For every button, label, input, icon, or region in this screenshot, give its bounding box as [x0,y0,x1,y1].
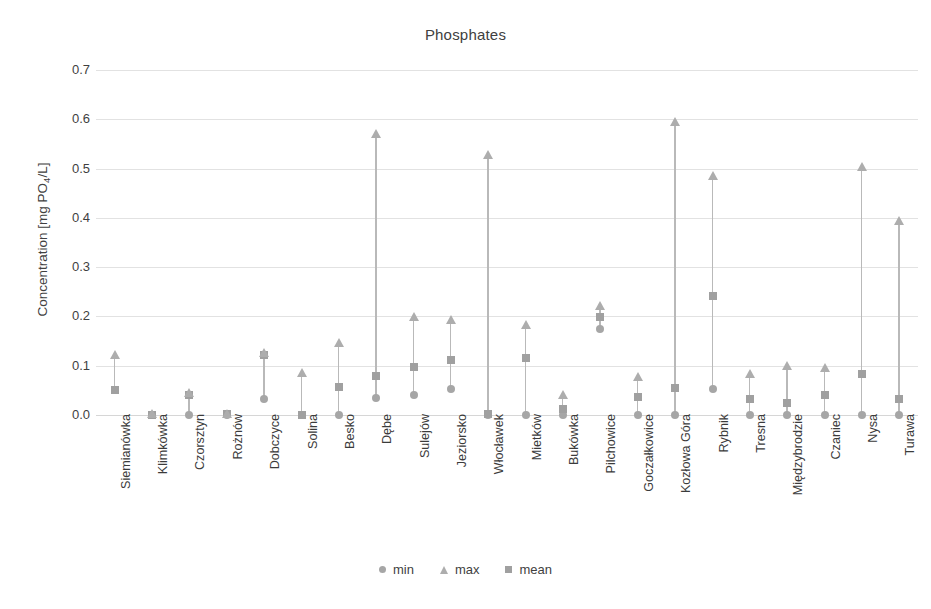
data-series-group[interactable] [217,70,237,415]
legend-label: mean [519,562,552,577]
data-point-min[interactable] [447,385,455,393]
x-axis-tick-label: Czaniec [830,414,843,542]
data-point-min[interactable] [596,325,604,333]
data-point-max[interactable] [782,361,792,370]
data-point-max[interactable] [558,390,568,399]
data-point-mean[interactable] [746,395,754,403]
data-series-group[interactable] [777,70,797,415]
data-point-max[interactable] [184,388,194,397]
x-axis-tick-label: Rybnik [718,414,731,542]
data-point-max[interactable] [446,315,456,324]
data-point-max[interactable] [857,162,867,171]
y-axis-tick-label: 0.2 [56,309,90,322]
x-axis-tick-label: Czorsztyn [194,414,207,542]
data-point-max[interactable] [595,301,605,310]
data-point-max[interactable] [409,312,419,321]
x-axis-tick-label: Siemianówka [120,414,133,542]
data-point-max[interactable] [259,348,269,357]
data-series-group[interactable] [516,70,536,415]
data-point-min[interactable] [372,394,380,402]
x-axis-tick-label: Jeziorsko [456,414,469,542]
data-series-group[interactable] [366,70,386,415]
legend-square-icon [505,566,512,573]
x-axis-tick-label: Dębe [381,414,394,542]
x-axis-tick-label: Besko [344,414,357,542]
data-point-mean[interactable] [447,356,455,364]
data-series-group[interactable] [889,70,909,415]
y-axis-title-subscript: 4 [41,178,52,183]
x-axis-tick-label: Dobczyce [269,414,282,542]
range-line [413,317,414,395]
data-series-group[interactable] [292,70,312,415]
data-point-max[interactable] [894,216,904,225]
y-axis-tick-label: 0.0 [56,408,90,421]
data-point-max[interactable] [334,338,344,347]
data-point-mean[interactable] [895,395,903,403]
data-point-mean[interactable] [858,370,866,378]
data-point-mean[interactable] [111,386,119,394]
range-line [487,155,488,415]
range-line [375,134,376,398]
chart-container: Phosphates Concentration [mg PO4/L] 0.70… [0,0,931,609]
legend-item-min[interactable]: min [379,562,414,577]
range-line [114,355,115,390]
x-axis-tick-labels: SiemianówkaKlimkówkaCzorsztynRożnówDobcz… [96,418,918,546]
data-point-max[interactable] [110,350,120,359]
data-point-max[interactable] [371,129,381,138]
data-series-group[interactable] [553,70,573,415]
data-point-max[interactable] [670,117,680,126]
x-axis-tick-label: Kozłowa Góra [680,414,693,542]
data-series-group[interactable] [142,70,162,415]
data-series-group[interactable] [665,70,685,415]
data-series-group[interactable] [815,70,835,415]
data-series-group[interactable] [404,70,424,415]
y-axis-tick-label: 0.7 [56,63,90,76]
data-series-group[interactable] [254,70,274,415]
data-series-group[interactable] [105,70,125,415]
range-line [674,122,675,415]
data-point-mean[interactable] [634,393,642,401]
data-point-mean[interactable] [410,363,418,371]
data-point-min[interactable] [260,395,268,403]
data-point-max[interactable] [745,369,755,378]
data-point-min[interactable] [709,385,717,393]
chart-legend: minmaxmean [0,562,931,577]
x-axis-tick-label: Solina [307,414,320,542]
data-point-mean[interactable] [522,354,530,362]
range-line [712,176,713,389]
data-series-group[interactable] [852,70,872,415]
data-point-max[interactable] [297,368,307,377]
data-point-max[interactable] [820,363,830,372]
data-point-mean[interactable] [372,372,380,380]
data-series-group[interactable] [740,70,760,415]
data-point-mean[interactable] [596,313,604,321]
data-series-group[interactable] [179,70,199,415]
data-series-group[interactable] [628,70,648,415]
data-point-max[interactable] [521,320,531,329]
data-point-mean[interactable] [559,405,567,413]
x-axis-tick-label: Tresna [755,414,768,542]
data-series-group[interactable] [478,70,498,415]
data-point-mean[interactable] [671,384,679,392]
x-axis-tick-label: Klimkówka [157,414,170,542]
data-point-mean[interactable] [783,399,791,407]
data-series-group[interactable] [703,70,723,415]
data-series-group[interactable] [441,70,461,415]
legend-item-mean[interactable]: mean [505,562,552,577]
data-point-mean[interactable] [709,292,717,300]
y-axis-tick-label: 0.3 [56,260,90,273]
data-series-group[interactable] [590,70,610,415]
y-axis-tick-label: 0.6 [56,112,90,125]
data-point-max[interactable] [483,150,493,159]
data-point-mean[interactable] [335,383,343,391]
data-series-group[interactable] [329,70,349,415]
range-line [301,373,302,415]
data-point-mean[interactable] [821,391,829,399]
x-axis-tick-label: Włocławek [493,414,506,542]
range-line [898,221,899,415]
data-point-max[interactable] [633,372,643,381]
legend-item-max[interactable]: max [440,562,480,577]
data-point-max[interactable] [708,171,718,180]
data-point-min[interactable] [410,391,418,399]
x-axis-tick-label: Sulejów [419,414,432,542]
